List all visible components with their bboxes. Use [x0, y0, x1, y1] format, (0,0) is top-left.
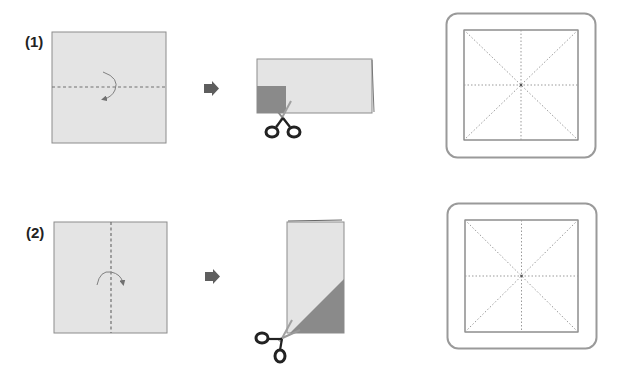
step-2-folded-paper	[287, 220, 344, 333]
step-1-result	[447, 14, 596, 158]
step-2-paper	[54, 222, 167, 333]
cut-region	[257, 86, 286, 113]
arrow-right-icon	[204, 81, 219, 96]
step-1-paper	[52, 32, 166, 143]
step-2-result	[448, 204, 597, 349]
step-1-folded-paper	[257, 59, 374, 113]
arrow-right-icon	[205, 269, 220, 284]
